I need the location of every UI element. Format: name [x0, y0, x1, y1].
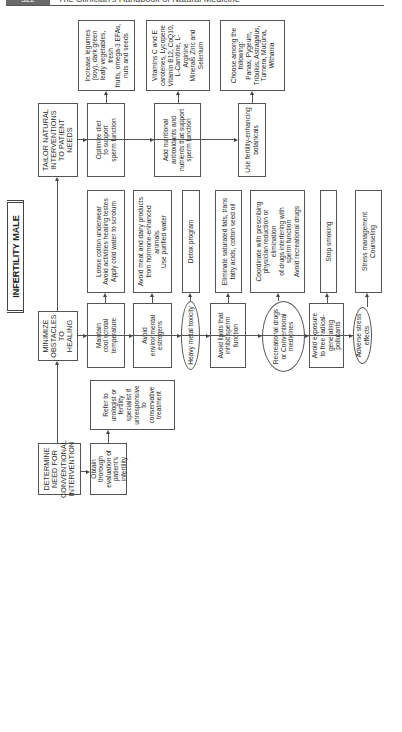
- node-stress: Adverse stress effects: [353, 307, 372, 364]
- arrow-chain-2: [129, 334, 133, 338]
- action-botanicals: Choose among the following: Panax, Pygeu…: [220, 20, 285, 91]
- arrow-chain-3: [177, 334, 181, 338]
- arrow-chain-1: [83, 334, 87, 338]
- arrow-chain-4: [206, 334, 210, 338]
- line-act-1: [105, 297, 106, 303]
- line-act-2: [152, 297, 153, 303]
- node-drugs: Recreational drugs or Conventional medic…: [262, 301, 305, 372]
- line-act-4: [228, 297, 229, 303]
- arrow-tact-2: [176, 91, 180, 95]
- action-estrogens: Avoid meat and dairy products from hormo…: [133, 190, 172, 293]
- trunk-line-2: [57, 365, 58, 443]
- node-add-antioxidants: Add nutritional antioxidants and nutrien…: [154, 103, 201, 177]
- arrow-tailor-3: [234, 138, 238, 142]
- node-tailor: TAILOR NATURAL INTERVENTIONS TO PATIENT …: [38, 103, 78, 177]
- arrow-to-minimize: [55, 361, 59, 365]
- arrow-tact-1: [104, 91, 108, 95]
- arrow-act-7: [365, 293, 369, 297]
- chain-line: [78, 335, 353, 336]
- diagram-title: INFERTILITY MALE: [7, 200, 24, 313]
- arrow-act-4: [226, 293, 230, 297]
- action-antioxidants: Vitamins C and E carotenes, Lycopene Vit…: [146, 20, 210, 91]
- action-pollutants: Stop smoking: [320, 190, 337, 293]
- line-act-6: [327, 297, 328, 303]
- arrow-chain-5: [258, 334, 262, 338]
- arrow-act-5: [276, 293, 280, 297]
- arrow-act-2: [150, 293, 154, 297]
- action-lipids: Eliminate saturated fats, trans fatty ac…: [215, 190, 242, 293]
- arrow-act-6: [325, 293, 329, 297]
- line-act-3: [190, 297, 191, 301]
- arrow-to-tailor: [55, 177, 59, 181]
- arrow-chain-6: [305, 334, 309, 338]
- action-heavy-metal: Detox program: [182, 190, 200, 293]
- action-diet: Increase legumes (soy), dark green leafy…: [78, 20, 135, 91]
- node-optimize-diet: Optimize diet to support sperm function: [87, 103, 125, 177]
- node-minimize: MINIMIZE OBSTACLES TO HEALING: [38, 311, 78, 361]
- line-act-5: [278, 297, 279, 301]
- arrow-tact-3: [250, 91, 254, 95]
- line-obtain-refer: [108, 434, 109, 443]
- line-tact-2: [178, 95, 179, 103]
- action-drugs: Coordinate with prescribing physician re…: [250, 190, 305, 293]
- line-tact-3: [252, 95, 253, 103]
- arrow-chain-7: [349, 334, 353, 338]
- arrow-act-3: [188, 293, 192, 297]
- flowchart: INFERTILITY MALE DETERMINE NEED FOR CONV…: [0, 0, 402, 732]
- tailor-chain-line: [78, 139, 234, 140]
- node-refer: Refer to urologist or fertility speciali…: [90, 380, 175, 430]
- arrow-to-refer: [106, 430, 110, 434]
- line-act-7: [367, 297, 368, 307]
- action-stress: Stress management Counseling: [355, 190, 382, 293]
- node-determine: DETERMINE NEED FOR CONVENTIONAL INTERVEN…: [38, 443, 81, 495]
- node-obtain-evaluation: Obtain thorough evaluation of patient's …: [90, 443, 127, 495]
- arrow-act-1: [103, 293, 107, 297]
- arrow-tailor-2: [150, 138, 154, 142]
- trunk-line-3: [57, 181, 58, 311]
- arrow-tailor-1: [83, 138, 87, 142]
- arrow-to-obtain: [86, 470, 90, 474]
- action-maintain: Loose cotton underwear Avoid activities …: [87, 190, 125, 293]
- line-tact-1: [106, 95, 107, 103]
- node-botanicals: Use fertility-enhancing botanicals: [238, 103, 266, 177]
